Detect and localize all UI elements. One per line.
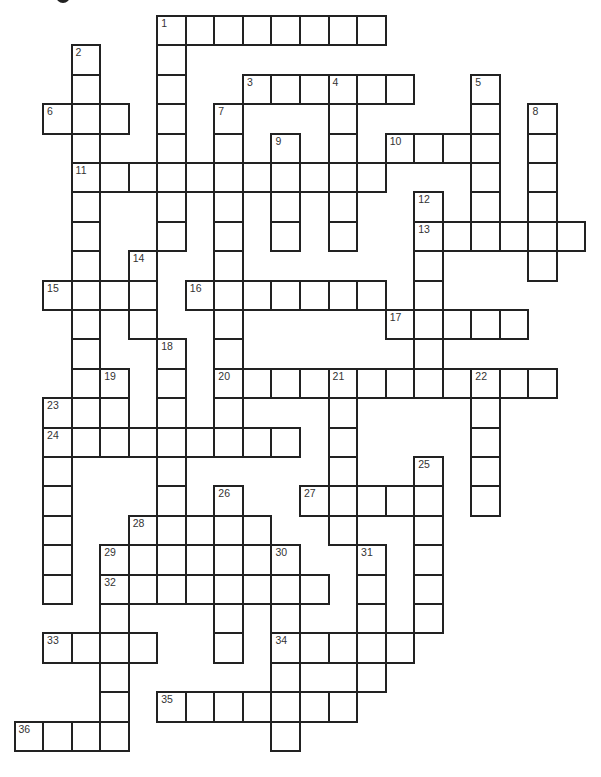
grid-cell-r9-c9[interactable] (270, 280, 301, 311)
letter-input[interactable] (44, 105, 71, 132)
grid-cell-r3-c2[interactable] (71, 103, 102, 134)
grid-cell-r5-c18[interactable] (527, 162, 558, 193)
grid-cell-r18-c7[interactable] (213, 544, 244, 575)
letter-input[interactable] (415, 370, 442, 397)
letter-input[interactable] (158, 370, 185, 397)
grid-cell-r12-c15[interactable] (442, 368, 473, 399)
grid-cell-r23-c6[interactable] (185, 691, 216, 722)
letter-input[interactable] (101, 164, 128, 191)
grid-cell-r14-c3[interactable] (99, 427, 130, 458)
letter-input[interactable] (472, 458, 499, 485)
grid-cell-r24-c0[interactable]: 36 (14, 721, 45, 752)
grid-cell-r13-c3[interactable] (99, 397, 130, 428)
letter-input[interactable] (215, 17, 242, 44)
grid-cell-r8-c18[interactable] (527, 250, 558, 281)
letter-input[interactable] (244, 517, 271, 544)
grid-cell-r3-c18[interactable]: 8 (527, 103, 558, 134)
letter-input[interactable] (358, 164, 385, 191)
letter-input[interactable] (472, 76, 499, 103)
letter-input[interactable] (73, 105, 100, 132)
grid-cell-r21-c7[interactable] (213, 632, 244, 663)
grid-cell-r0-c11[interactable] (328, 15, 359, 46)
letter-input[interactable] (272, 76, 299, 103)
letter-input[interactable] (330, 487, 357, 514)
letter-input[interactable] (272, 693, 299, 720)
letter-input[interactable] (44, 634, 71, 661)
letter-input[interactable] (187, 429, 214, 456)
letter-input[interactable] (44, 487, 71, 514)
letter-input[interactable] (130, 429, 157, 456)
letter-input[interactable] (301, 282, 328, 309)
letter-input[interactable] (415, 311, 442, 338)
grid-cell-r2-c5[interactable] (156, 74, 187, 105)
letter-input[interactable] (158, 429, 185, 456)
grid-cell-r3-c16[interactable] (470, 103, 501, 134)
grid-cell-r3-c11[interactable] (328, 103, 359, 134)
letter-input[interactable] (415, 252, 442, 279)
letter-input[interactable] (272, 723, 299, 750)
grid-cell-r5-c2[interactable]: 11 (71, 162, 102, 193)
letter-input[interactable] (358, 282, 385, 309)
letter-input[interactable] (187, 576, 214, 603)
letter-input[interactable] (73, 164, 100, 191)
letter-input[interactable] (387, 634, 414, 661)
grid-cell-r18-c14[interactable] (413, 544, 444, 575)
grid-cell-r14-c2[interactable] (71, 427, 102, 458)
letter-input[interactable] (415, 576, 442, 603)
grid-cell-r9-c11[interactable] (328, 280, 359, 311)
grid-cell-r17-c8[interactable] (242, 515, 273, 546)
grid-cell-r0-c9[interactable] (270, 15, 301, 46)
grid-cell-r10-c7[interactable] (213, 309, 244, 340)
letter-input[interactable] (330, 193, 357, 220)
grid-cell-r9-c12[interactable] (356, 280, 387, 311)
grid-cell-r7-c19[interactable] (556, 221, 587, 252)
grid-cell-r12-c18[interactable] (527, 368, 558, 399)
grid-cell-r16-c10[interactable]: 27 (299, 485, 330, 516)
letter-input[interactable] (330, 135, 357, 162)
grid-cell-r6-c2[interactable] (71, 191, 102, 222)
grid-cell-r14-c1[interactable]: 24 (42, 427, 73, 458)
letter-input[interactable] (187, 282, 214, 309)
letter-input[interactable] (130, 576, 157, 603)
letter-input[interactable] (244, 76, 271, 103)
grid-cell-r4-c16[interactable] (470, 133, 501, 164)
grid-cell-r19-c6[interactable] (185, 574, 216, 605)
letter-input[interactable] (472, 370, 499, 397)
letter-input[interactable] (44, 723, 71, 750)
grid-cell-r5-c8[interactable] (242, 162, 273, 193)
grid-cell-r14-c6[interactable] (185, 427, 216, 458)
letter-input[interactable] (472, 429, 499, 456)
letter-input[interactable] (272, 605, 299, 632)
letter-input[interactable] (73, 311, 100, 338)
grid-cell-r12-c9[interactable] (270, 368, 301, 399)
letter-input[interactable] (529, 370, 556, 397)
grid-cell-r0-c10[interactable] (299, 15, 330, 46)
grid-cell-r22-c9[interactable] (270, 662, 301, 693)
grid-cell-r13-c11[interactable] (328, 397, 359, 428)
letter-input[interactable] (187, 517, 214, 544)
grid-cell-r9-c4[interactable] (128, 280, 159, 311)
letter-input[interactable] (73, 252, 100, 279)
grid-cell-r24-c2[interactable] (71, 721, 102, 752)
letter-input[interactable] (101, 429, 128, 456)
letter-input[interactable] (558, 223, 585, 250)
letter-input[interactable] (158, 135, 185, 162)
letter-input[interactable] (73, 135, 100, 162)
grid-cell-r6-c7[interactable] (213, 191, 244, 222)
grid-cell-r9-c7[interactable] (213, 280, 244, 311)
letter-input[interactable] (272, 282, 299, 309)
letter-input[interactable] (244, 17, 271, 44)
grid-cell-r11-c7[interactable] (213, 338, 244, 369)
letter-input[interactable] (215, 370, 242, 397)
letter-input[interactable] (158, 164, 185, 191)
grid-cell-r18-c12[interactable]: 31 (356, 544, 387, 575)
letter-input[interactable] (215, 282, 242, 309)
letter-input[interactable] (472, 193, 499, 220)
letter-input[interactable] (301, 634, 328, 661)
grid-cell-r6-c5[interactable] (156, 191, 187, 222)
letter-input[interactable] (330, 634, 357, 661)
letter-input[interactable] (130, 252, 157, 279)
grid-cell-r15-c11[interactable] (328, 456, 359, 487)
grid-cell-r7-c7[interactable] (213, 221, 244, 252)
letter-input[interactable] (415, 546, 442, 573)
